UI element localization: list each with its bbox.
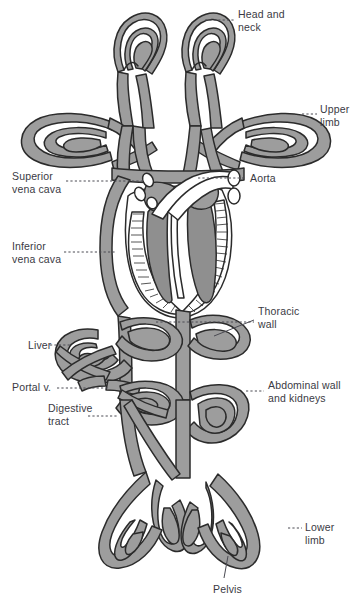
head-neck-capillary-bed-left [114,13,167,128]
abdominal-kidney-bed [186,385,249,443]
label-pelvis: Pelvis [213,583,242,596]
label-inferior-vena-cava: Inferior vena cava [12,240,61,265]
label-abdominal-wall-kidneys: Abdominal wall and kidneys [268,379,341,404]
aorta-descending [176,310,190,400]
circulation-diagram: .v { fill:#9d9d9d; stroke:#2b2b2b; strok… [0,0,353,606]
figure-canvas: .v { fill:#9d9d9d; stroke:#2b2b2b; strok… [0,0,353,606]
head-neck-capillary-bed-right [182,13,235,128]
label-head-and-neck: Head and neck [238,8,285,33]
label-aorta: Aorta [250,172,276,185]
label-digestive-tract: Digestive tract [48,402,93,427]
label-liver: Liver [28,339,52,352]
label-portal-vein: Portal v. [12,381,51,394]
label-superior-vena-cava: Superior vena cava [12,170,61,195]
label-lower-limb: Lower limb [305,521,334,546]
vessel-stub-b [228,188,240,204]
label-upper-limb: Upper limb [320,103,349,128]
label-thoracic-wall: Thoracic wall [258,305,299,330]
